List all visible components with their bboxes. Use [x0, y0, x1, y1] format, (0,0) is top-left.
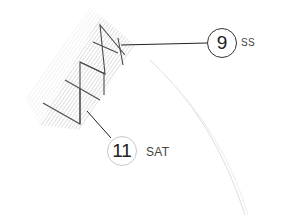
callout-11-number: 11	[112, 140, 132, 162]
callout-9-badge: 9	[207, 28, 237, 58]
callout-9-label: SS	[241, 37, 255, 48]
stitch-illustration	[0, 0, 297, 220]
callout-11-label: SAT	[146, 145, 169, 159]
leader-line-11	[87, 111, 111, 138]
leader-line-9	[121, 43, 207, 45]
callout-11-badge: 11	[107, 136, 137, 166]
callout-9-number: 9	[217, 32, 228, 54]
background-arc	[150, 60, 248, 215]
